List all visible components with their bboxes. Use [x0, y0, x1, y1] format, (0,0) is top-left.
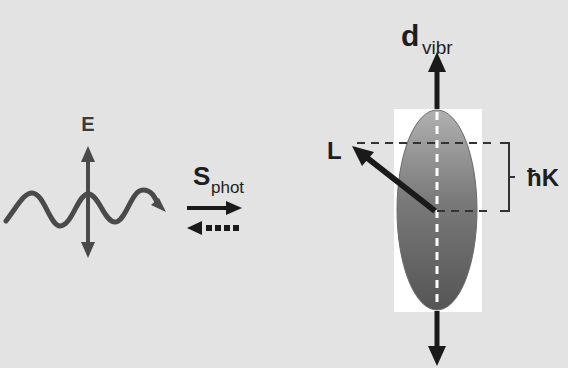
projection-label: ħK	[527, 164, 560, 191]
photon-spin-symbol: S	[193, 161, 210, 191]
angular-momentum-label: L	[327, 137, 342, 164]
dipole-down-arrow-icon	[428, 311, 446, 366]
dipole-up-arrow-icon	[428, 52, 446, 110]
dipole-symbol: d	[401, 19, 419, 52]
molecule-group: d vibr L	[327, 19, 560, 366]
photon-spin-group: S phot	[187, 161, 244, 235]
light-wave-group: E	[6, 113, 166, 258]
photon-spin-subscript: phot	[211, 178, 244, 197]
solid-right-arrow-icon	[187, 201, 242, 215]
diagram-canvas: E S phot	[0, 0, 568, 368]
projection-bracket-icon	[500, 143, 515, 211]
e-field-label: E	[81, 113, 94, 135]
dotted-left-arrow-icon	[187, 221, 239, 235]
e-field-double-arrow-icon	[81, 146, 95, 258]
diagram-svg: E S phot	[0, 0, 568, 368]
